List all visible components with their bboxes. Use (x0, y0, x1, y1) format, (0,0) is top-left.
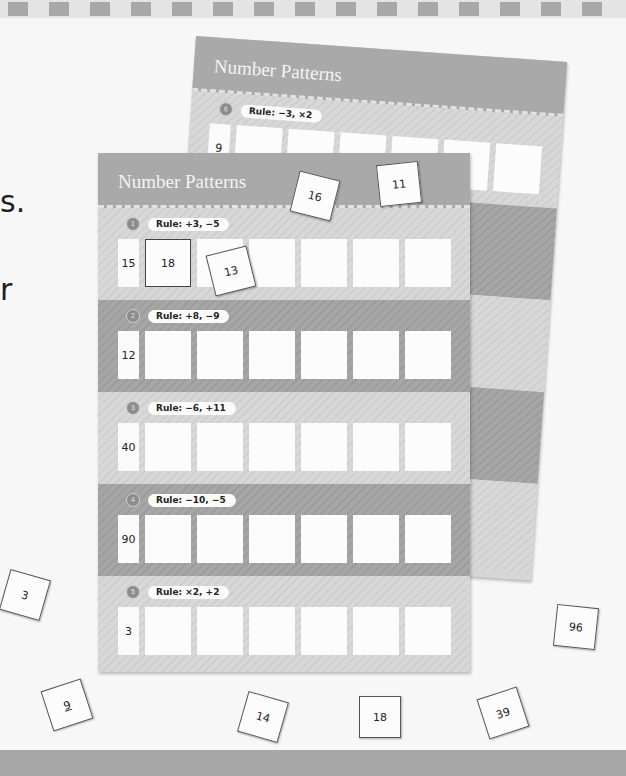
start-value: 12 (118, 331, 139, 379)
answer-box[interactable] (197, 515, 243, 563)
rule-label: Rule: −3, ×2 (240, 104, 322, 123)
bottom-border-bar (0, 750, 626, 776)
answer-box[interactable] (145, 515, 191, 563)
answer-box[interactable] (493, 143, 542, 194)
answer-box[interactable] (353, 515, 399, 563)
answer-box[interactable] (145, 331, 191, 379)
problem-number-badge: 6 (218, 102, 233, 117)
answer-box[interactable] (405, 423, 451, 471)
cropped-text-fragment: s. (0, 184, 25, 219)
sheet-title: Number Patterns (213, 55, 342, 86)
answer-box[interactable] (353, 607, 399, 655)
answer-box[interactable] (301, 607, 347, 655)
rule-label: Rule: +3, −5 (148, 218, 229, 231)
number-tile[interactable]: 39 (477, 687, 530, 740)
answer-box[interactable] (249, 607, 295, 655)
problem-number-badge: 5 (126, 585, 140, 599)
number-tile[interactable]: 96 (553, 604, 599, 650)
answer-box[interactable] (301, 423, 347, 471)
answer-box[interactable] (405, 239, 451, 287)
answer-box[interactable] (405, 607, 451, 655)
answer-box[interactable] (145, 423, 191, 471)
answer-box[interactable] (353, 239, 399, 287)
answer-box[interactable] (405, 331, 451, 379)
number-tile[interactable]: 11 (376, 161, 422, 207)
problem-number-badge: 3 (126, 401, 140, 415)
answer-box[interactable] (145, 607, 191, 655)
answer-box[interactable] (301, 515, 347, 563)
start-value: 3 (118, 607, 139, 655)
problem-number-badge: 2 (126, 309, 140, 323)
rule-label: Rule: −10, −5 (148, 494, 236, 507)
cropped-text-fragment: r (0, 272, 12, 307)
problem-section-5: 5 Rule: ×2, +2 3 (98, 576, 470, 672)
start-value: 15 (118, 239, 139, 287)
start-value: 40 (118, 423, 139, 471)
answer-box[interactable] (197, 331, 243, 379)
number-tile[interactable]: 14 (237, 691, 289, 743)
rule-label: Rule: −6, +11 (148, 402, 236, 415)
problem-section-4: 4 Rule: −10, −5 90 (98, 484, 470, 576)
rule-label: Rule: ×2, +2 (148, 586, 229, 599)
answer-box[interactable]: 18 (145, 239, 191, 287)
answer-box[interactable] (353, 331, 399, 379)
problem-section-1: 1 Rule: +3, −5 15 18 (98, 208, 470, 300)
rule-label: Rule: +8, −9 (148, 310, 229, 323)
answer-box[interactable] (249, 423, 295, 471)
answer-box[interactable] (249, 515, 295, 563)
answer-box[interactable] (249, 239, 295, 287)
answer-box[interactable] (301, 239, 347, 287)
sheet-title: Number Patterns (118, 171, 246, 193)
number-tile[interactable]: 3 (0, 569, 51, 621)
answer-box[interactable] (197, 607, 243, 655)
answer-box[interactable] (353, 423, 399, 471)
problem-number-badge: 4 (126, 493, 140, 507)
problem-section-3: 3 Rule: −6, +11 40 (98, 392, 470, 484)
number-tile[interactable]: 9 (41, 679, 94, 732)
answer-box[interactable] (249, 331, 295, 379)
top-dashed-border (0, 0, 626, 18)
front-worksheet: Number Patterns 1 Rule: +3, −5 15 18 2 R… (98, 153, 470, 672)
problem-section-2: 2 Rule: +8, −9 12 (98, 300, 470, 392)
start-value: 90 (118, 515, 139, 563)
number-tile[interactable]: 18 (359, 696, 401, 738)
answer-box[interactable] (197, 423, 243, 471)
problem-number-badge: 1 (126, 217, 140, 231)
answer-box[interactable] (301, 331, 347, 379)
answer-box[interactable] (405, 515, 451, 563)
